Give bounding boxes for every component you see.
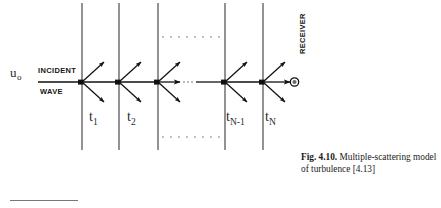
slab-label-t2-sub: 2 [131,117,136,127]
node1-incoming-head [78,80,84,85]
node2-scatter-up [119,62,141,82]
slab-label-t1-sub: 1 [93,117,98,127]
amplitude-subscript: o [17,72,22,82]
scattering-diagram [0,0,441,208]
node4-scatter-up [225,62,247,82]
node2-scatter-down [119,82,141,102]
node1-scatter-up [82,62,104,82]
amplitude-symbol: u [10,65,17,80]
node3-scatter-up [158,62,180,82]
ellipsis-row-top [162,36,220,38]
node4-incoming-head [221,80,227,85]
node4-scatter-down [225,82,247,102]
node2-incoming-head [115,80,121,85]
slab-label-tn: tN [265,110,276,128]
slab-label-t2: t2 [127,110,136,128]
incident-amplitude-label: uo [10,66,22,82]
receiver-symbol [290,78,298,86]
figure-caption: Fig. 4.10. Multiple-scattering model of … [301,151,437,176]
node3-incoming-head [154,80,160,85]
node5-scatter-up [263,62,285,82]
figure-caption-number: Fig. 4.10. [301,152,337,162]
slab-label-tn-minus-1-sub: N-1 [230,117,245,127]
axis-ellipsis-dots [183,81,193,83]
slab-boundary-lines [82,3,263,150]
incident-wave-label-line2: WAVE [40,88,63,96]
slab-label-tn-sub: N [269,117,276,127]
receiver-label: RECEIVER [299,13,307,54]
incident-wave-label-line1: INCIDENT [38,67,76,75]
figure-container: uo INCIDENT WAVE RECEIVER t1 t2 tN-1 tN … [0,0,441,208]
node3-scatter-down [158,82,180,102]
node5-incoming-head [259,80,265,85]
slab-label-t1: t1 [89,110,98,128]
ellipsis-row-bottom [162,136,220,138]
node1-scatter-down [82,82,104,102]
node5-scatter-down [263,82,285,102]
slab-label-tn-minus-1: tN-1 [226,110,245,128]
